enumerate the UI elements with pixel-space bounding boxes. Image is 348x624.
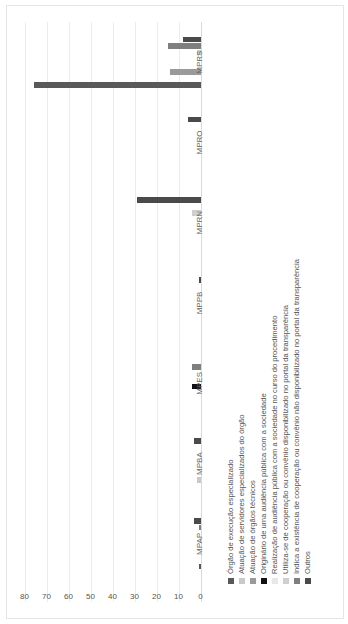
y-tick-label: 50: [81, 592, 101, 601]
y-tick-label: 0: [191, 592, 211, 601]
legend-item: Atuação de servidores especializados do …: [236, 24, 247, 584]
gridline: [69, 22, 70, 602]
legend-label: Utiliza-se de cooperação ou convênio dis…: [280, 305, 291, 574]
legend-item: Utiliza-se de cooperação ou convênio dis…: [280, 24, 291, 584]
legend-swatch-icon: [239, 578, 245, 584]
legend-item: Outros: [302, 24, 313, 584]
y-tick-label: 20: [147, 592, 167, 601]
gridline: [135, 22, 136, 602]
gridline: [113, 22, 114, 602]
gridline: [157, 22, 158, 602]
legend-label: Atuação de servidores especializados do …: [236, 414, 247, 574]
legend-label: Outros: [302, 551, 313, 574]
y-tick-label: 30: [125, 592, 145, 601]
legend-label: Indica a existência de cooperação ou con…: [291, 259, 302, 574]
gridline: [47, 22, 48, 602]
category-label: MPBA: [195, 434, 204, 494]
category-label: MPES: [195, 353, 204, 413]
rotated-chart: 01020304050607080 Órgão de execução espe…: [11, 14, 341, 614]
y-tick-label: 60: [59, 592, 79, 601]
legend-swatch-icon: [272, 578, 278, 584]
legend-swatch-icon: [283, 578, 289, 584]
y-tick-label: 40: [103, 592, 123, 601]
category-label: MPAP: [195, 514, 204, 574]
category-label: MPRS: [195, 32, 204, 92]
legend-label: Realização de audiência pública com a so…: [269, 316, 280, 574]
y-tick-label: 70: [37, 592, 57, 601]
legend-label: Órgão de execução especializado: [225, 460, 236, 574]
legend-swatch-icon: [305, 578, 311, 584]
category-label: MPRO: [195, 112, 204, 172]
category-label: MPPB: [195, 273, 204, 333]
gridline: [179, 22, 180, 602]
legend-swatch-icon: [250, 578, 256, 584]
legend-item: Realização de audiência pública com a so…: [269, 24, 280, 584]
y-tick-label: 10: [169, 592, 189, 601]
legend-swatch-icon: [261, 578, 267, 584]
legend-swatch-icon: [228, 578, 234, 584]
legend-label: Originário de uma audiência pública com …: [258, 393, 269, 574]
legend-item: Indica a existência de cooperação ou con…: [291, 24, 302, 584]
chart-frame: 01020304050607080 Órgão de execução espe…: [6, 5, 344, 619]
bar: [34, 82, 201, 88]
plot-area: 01020304050607080: [25, 22, 205, 602]
legend-item: Atuação de órgãos técnicos: [247, 24, 258, 584]
legend-item: Órgão de execução especializado: [225, 24, 236, 584]
gridline: [25, 22, 26, 602]
bar: [137, 197, 201, 203]
y-tick-label: 80: [15, 592, 35, 601]
gridline: [91, 22, 92, 602]
legend-item: Originário de uma audiência pública com …: [258, 24, 269, 584]
category-label: MPRN: [195, 193, 204, 253]
legend-label: Atuação de órgãos técnicos: [247, 480, 258, 574]
legend: Órgão de execução especializadoAtuação d…: [225, 24, 313, 584]
legend-swatch-icon: [294, 578, 300, 584]
